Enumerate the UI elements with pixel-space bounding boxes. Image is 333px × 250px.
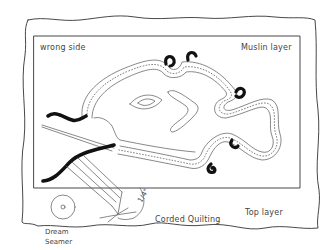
seamer-wheel-hub xyxy=(61,205,65,209)
label-seamer: Seamer xyxy=(45,238,72,246)
channel-inner-line xyxy=(92,69,273,160)
cord-lower xyxy=(43,145,114,181)
label-dream: Dream xyxy=(45,228,69,236)
needle xyxy=(42,125,114,148)
cord-loop-2 xyxy=(188,53,196,60)
seamer-body xyxy=(66,156,122,206)
seamer-tip xyxy=(112,192,128,214)
label-top-layer: Top layer xyxy=(244,208,283,217)
seamer-wheel xyxy=(51,195,75,219)
cord-loop-3 xyxy=(236,88,244,97)
label-corded-quilting: Corded Quilting xyxy=(155,215,221,224)
channel-outer-line xyxy=(82,60,281,168)
label-wrong-side: wrong side xyxy=(40,43,86,52)
cord-upper xyxy=(48,114,86,121)
corded-quilting-diagram: wrong side Muslin layer Top layer Corded… xyxy=(0,0,333,250)
fish-fin-chevron xyxy=(168,91,198,133)
label-muslin-layer: Muslin layer xyxy=(241,43,292,52)
fish-eye-inner xyxy=(138,99,155,106)
cord-loop-5 xyxy=(208,164,215,172)
cord-loop-1 xyxy=(166,57,175,66)
fish-eye-outer xyxy=(130,95,162,109)
channel-stitching xyxy=(87,64,277,164)
